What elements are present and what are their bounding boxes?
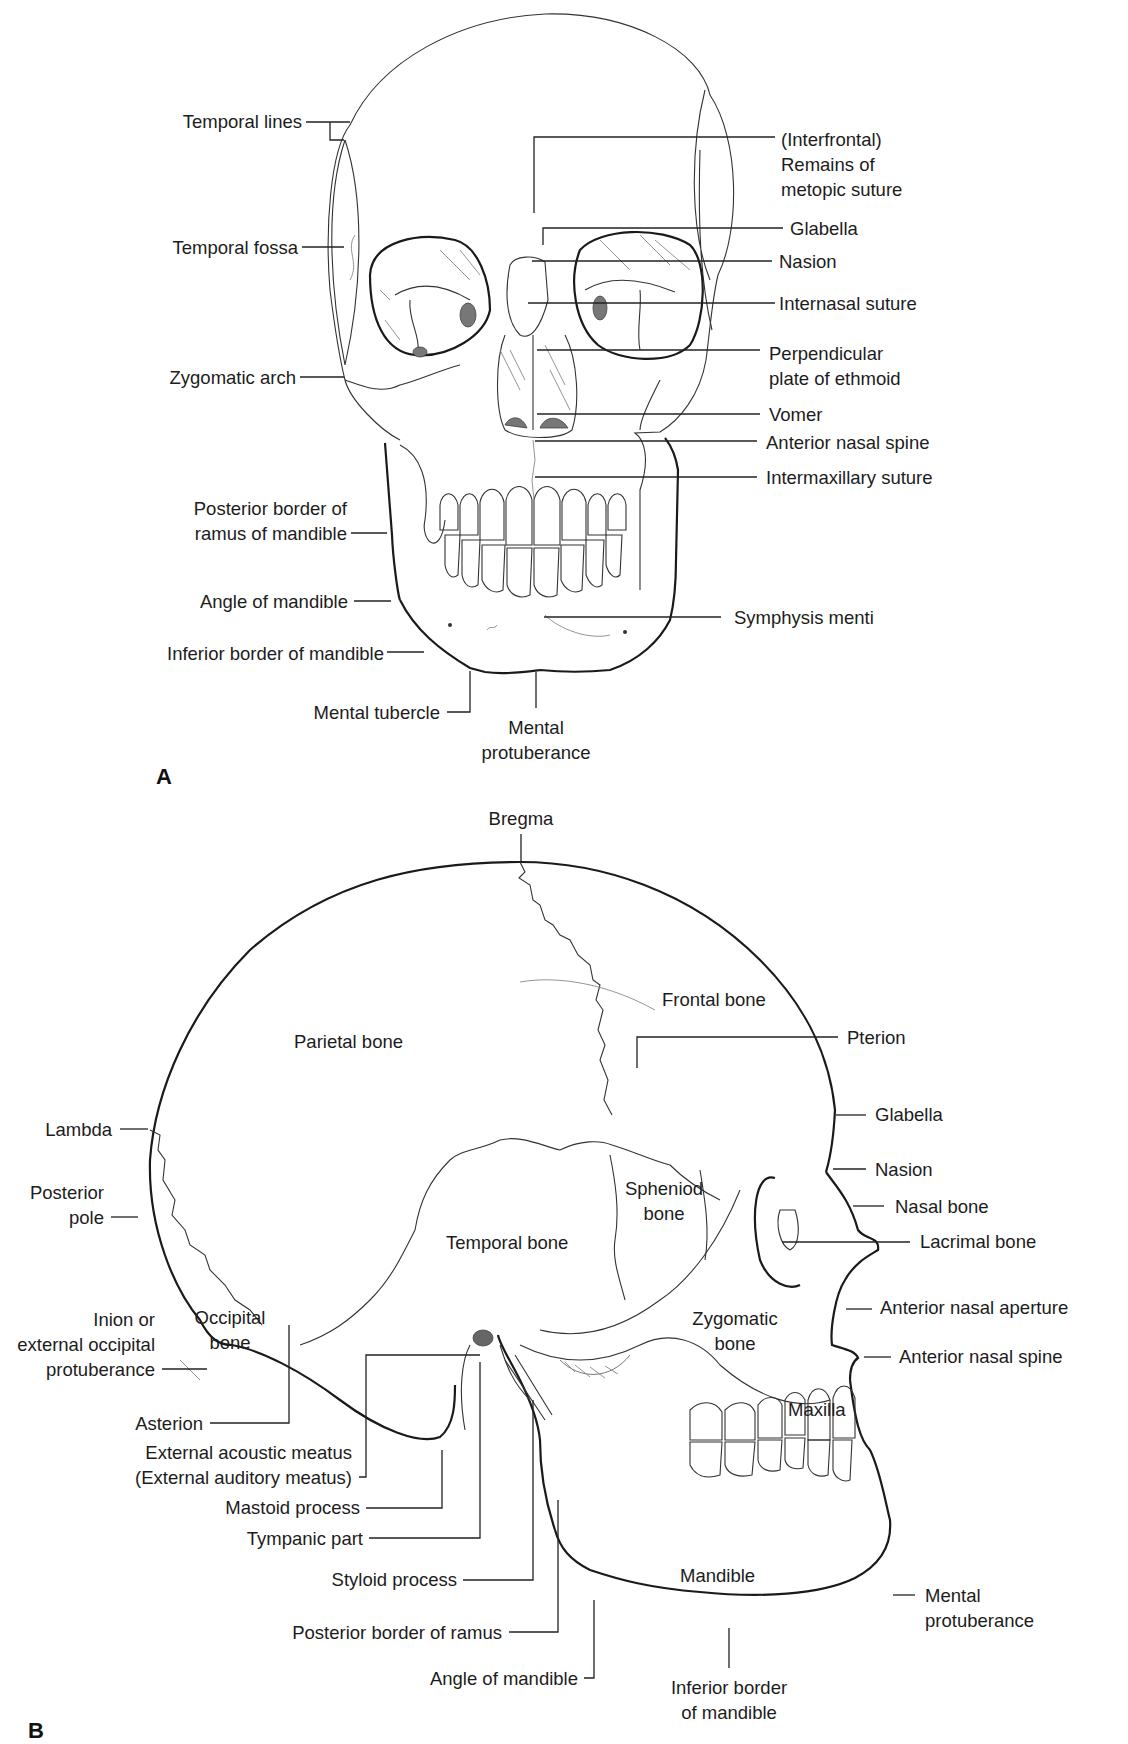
label-posterior-border-ramus-l1: Posterior border of — [194, 497, 347, 520]
label-external-acoustic-meatus-l1: External acoustic meatus — [145, 1441, 352, 1464]
label-inion-l1: Inion or — [93, 1308, 155, 1331]
region-occipital-bone-l2: bone — [180, 1331, 280, 1354]
label-anterior-nasal-aperture: Anterior nasal aperture — [880, 1296, 1068, 1319]
label-vomer: Vomer — [769, 403, 822, 426]
region-mandible: Mandible — [680, 1564, 755, 1587]
lateral-skull-drawing — [111, 834, 915, 1678]
label-intermaxillary-suture: Intermaxillary suture — [766, 466, 933, 489]
label-nasal-bone: Nasal bone — [895, 1195, 989, 1218]
label-posterior-border-ramus-l2: ramus of mandible — [195, 522, 347, 545]
label-asterion: Asterion — [135, 1412, 203, 1435]
label-angle-of-mandible-b: Angle of mandible — [430, 1667, 578, 1690]
region-frontal-bone: Frontal bone — [662, 988, 766, 1011]
label-symphysis-menti: Symphysis menti — [734, 606, 874, 629]
mandible-outline-a — [400, 438, 678, 673]
label-inion-l3: protuberance — [46, 1358, 155, 1381]
label-perpendicular-plate-l1: Perpendicular — [769, 342, 883, 365]
label-mental-protuberance-b-l1: Mental — [925, 1584, 981, 1607]
orbit-b — [755, 1177, 800, 1286]
label-zygomatic-arch: Zygomatic arch — [170, 366, 296, 389]
anterior-skull-drawing — [300, 14, 783, 712]
label-mental-protuberance-a-l1: Mental — [476, 716, 596, 739]
label-mental-tubercle: Mental tubercle — [314, 701, 440, 724]
region-zygomatic-bone-l1: Zygomatic — [680, 1307, 790, 1330]
cranium-outline-a — [350, 14, 734, 590]
label-angle-of-mandible-a: Angle of mandible — [200, 590, 348, 613]
label-glabella-a: Glabella — [790, 217, 858, 240]
label-external-acoustic-meatus-l2: (External auditory meatus) — [135, 1466, 352, 1489]
label-posterior-border-ramus-b: Posterior border of ramus — [292, 1621, 502, 1644]
region-zygomatic-bone-l2: bone — [680, 1332, 790, 1355]
region-occipital-bone-l1: Occipital — [180, 1306, 280, 1329]
label-mental-protuberance-a-l2: protuberance — [476, 741, 596, 764]
region-parietal-bone: Parietal bone — [294, 1030, 403, 1053]
label-styloid-process: Styloid process — [332, 1568, 457, 1591]
label-inferior-border-mandible-b-l1: Inferior border — [659, 1676, 799, 1699]
label-mastoid-process: Mastoid process — [225, 1496, 360, 1519]
coronal-suture — [519, 862, 612, 1115]
label-posterior-pole-l2: pole — [69, 1206, 104, 1229]
panel-letter-a: A — [156, 764, 172, 790]
label-remains-of: Remains of — [781, 153, 875, 176]
label-temporal-lines: Temporal lines — [183, 110, 302, 133]
label-lacrimal-bone: Lacrimal bone — [920, 1230, 1036, 1253]
label-tympanic-part: Tympanic part — [247, 1527, 363, 1550]
panel-letter-b: B — [28, 1718, 44, 1744]
label-nasion-b: Nasion — [875, 1158, 933, 1181]
region-sphenoid-bone-l1: Spheniod — [604, 1177, 724, 1200]
label-temporal-fossa: Temporal fossa — [173, 236, 298, 259]
label-perpendicular-plate-l2: plate of ethmoid — [769, 367, 901, 390]
label-mental-protuberance-b-l2: protuberance — [925, 1609, 1034, 1632]
label-anterior-nasal-spine-b: Anterior nasal spine — [899, 1345, 1063, 1368]
region-sphenoid-bone-l2: bone — [604, 1202, 724, 1225]
label-lambda: Lambda — [45, 1118, 112, 1141]
label-inferior-border-mandible-b-l2: of mandible — [659, 1701, 799, 1724]
cranium-outline-b — [520, 862, 835, 1172]
label-metopic-suture: metopic suture — [781, 178, 902, 201]
left-orbit — [370, 237, 490, 355]
label-posterior-pole-l1: Posterior — [30, 1181, 104, 1204]
label-internasal-suture: Internasal suture — [779, 292, 917, 315]
label-anterior-nasal-spine-a: Anterior nasal spine — [766, 431, 930, 454]
label-glabella-b: Glabella — [875, 1103, 943, 1126]
label-interfrontal: (Interfrontal) — [781, 128, 882, 151]
label-bregma: Bregma — [461, 807, 581, 830]
label-inion-l2: external occipital — [17, 1333, 155, 1356]
label-pterion: Pterion — [847, 1026, 906, 1049]
label-nasion-a: Nasion — [779, 250, 837, 273]
teeth-a — [440, 487, 626, 597]
label-inferior-border-mandible-a: Inferior border of mandible — [167, 642, 384, 665]
region-maxilla: Maxilla — [788, 1398, 846, 1421]
region-temporal-bone: Temporal bone — [446, 1231, 568, 1254]
